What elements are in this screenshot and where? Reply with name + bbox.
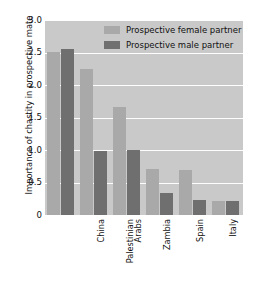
bar-group [80, 20, 107, 215]
bar [146, 169, 159, 215]
x-tick-label: Palestinian Arabs [126, 219, 143, 281]
x-tick-label: Spain [196, 219, 204, 285]
x-tick-label: Italy [229, 219, 237, 285]
x-tick-label: Zambia [163, 219, 171, 285]
bar [47, 52, 60, 215]
y-tick-label: 2.5 [2, 48, 42, 57]
bar [179, 170, 192, 216]
legend-label: Prospective female partner [126, 25, 241, 35]
legend-swatch [104, 41, 120, 49]
y-tick-label: 3.0 [2, 16, 42, 25]
bar [61, 49, 74, 215]
chart-figure: Importance of chastity in prospective ma… [0, 0, 255, 285]
y-tick-label: 1.5 [2, 113, 42, 122]
bar [80, 69, 93, 215]
bar-group [47, 20, 74, 215]
bar [160, 193, 173, 215]
y-tick-label: 1.0 [2, 146, 42, 155]
chart-legend: Prospective female partnerProspective ma… [104, 22, 241, 52]
bar [212, 201, 225, 215]
y-tick-label: 0.5 [2, 178, 42, 187]
y-tick-label: 0 [2, 211, 42, 220]
legend-item: Prospective female partner [104, 22, 241, 37]
bar [127, 150, 140, 215]
legend-swatch [104, 26, 120, 34]
legend-item: Prospective male partner [104, 37, 241, 52]
legend-label: Prospective male partner [126, 40, 233, 50]
bar [94, 151, 107, 215]
bar [193, 200, 206, 215]
y-tick-label: 2.0 [2, 81, 42, 90]
bar [113, 107, 126, 215]
bar [226, 201, 239, 215]
x-tick-label: China [97, 219, 105, 285]
